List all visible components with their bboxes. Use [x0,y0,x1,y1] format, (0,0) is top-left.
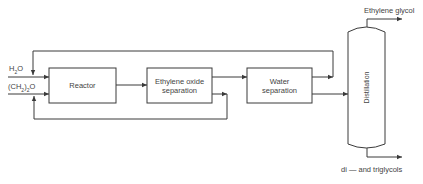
water-separation-label: Water separation [247,77,312,95]
eo-separation-label: Ethylene oxide separation [147,77,212,95]
ethylene-glycol-label: Ethylene glycol [364,6,414,15]
ethylene-glycol-output [367,19,402,27]
ethylene-oxide-input-label: (CH2)2O [8,82,35,93]
distillation-label: Distillation [363,63,370,113]
water-input-label: H2O [9,64,23,75]
reactor-label: Reactor [49,81,116,90]
glycols-output [367,148,402,157]
di-triglycols-label: di — and triglycols [341,165,402,174]
